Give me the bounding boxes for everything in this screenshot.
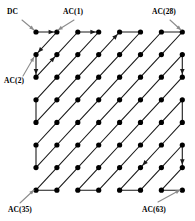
coefficient-node — [117, 120, 122, 125]
coefficient-node — [117, 29, 122, 34]
coefficient-node — [54, 75, 59, 80]
zigzag-diagram-svg — [0, 0, 195, 221]
coefficient-node — [75, 142, 80, 147]
zigzag-segment — [99, 55, 120, 78]
zigzag-segment — [78, 145, 99, 168]
zigzag-segment — [120, 55, 141, 78]
zigzag-segment — [99, 168, 120, 191]
coefficient-node — [33, 120, 38, 125]
zigzag-segment — [120, 32, 141, 55]
zigzag-segment — [141, 168, 162, 191]
coefficient-node — [75, 52, 80, 57]
coefficient-node — [75, 75, 80, 80]
zigzag-segment — [57, 55, 78, 78]
coefficient-node — [138, 97, 143, 102]
coefficient-node — [117, 188, 122, 193]
coefficient-node — [180, 97, 185, 102]
coefficient-node — [33, 97, 38, 102]
coefficient-node — [180, 75, 185, 80]
zigzag-arrowhead — [180, 69, 185, 74]
zigzag-segment — [57, 32, 78, 55]
zigzag-segment — [99, 77, 120, 100]
coefficient-node — [33, 165, 38, 170]
zigzag-segment — [141, 55, 162, 78]
zigzag-segment — [57, 122, 78, 145]
zigzag-segment — [120, 145, 141, 168]
zigzag-segment — [36, 145, 57, 168]
zigzag-segment — [57, 145, 78, 168]
zigzag-segment — [141, 122, 162, 145]
label-dc: DC — [7, 7, 18, 16]
zigzag-segment — [161, 168, 182, 191]
coefficient-node — [96, 52, 101, 57]
coefficient-node — [96, 188, 101, 193]
coefficient-node — [54, 165, 59, 170]
zigzag-segment — [36, 77, 57, 100]
zigzag-arrowhead — [49, 30, 54, 35]
zigzag-segment — [57, 168, 78, 191]
zigzag-segment — [161, 145, 182, 168]
zigzag-segment — [141, 32, 162, 55]
label-ac28: AC(28) — [152, 7, 176, 16]
zigzag-segment — [120, 122, 141, 145]
coefficient-node — [138, 165, 143, 170]
zigzag-segment — [57, 77, 78, 100]
coefficient-node — [75, 97, 80, 102]
label-ac2: AC(2) — [4, 76, 24, 85]
zigzag-segment — [36, 168, 57, 191]
coefficient-node — [117, 52, 122, 57]
coefficient-node — [159, 165, 164, 170]
coefficient-node — [96, 120, 101, 125]
label-ac1: AC(1) — [63, 7, 83, 16]
zigzag-segment — [57, 100, 78, 123]
zigzag-segment — [141, 100, 162, 123]
coefficient-node — [138, 29, 143, 34]
zigzag-segment — [161, 32, 182, 55]
coefficient-node — [180, 52, 185, 57]
coefficient-node — [117, 75, 122, 80]
coefficient-node — [159, 52, 164, 57]
coefficient-node — [96, 165, 101, 170]
coefficient-node — [75, 29, 80, 34]
coefficient-node — [33, 52, 38, 57]
coefficient-node — [75, 188, 80, 193]
zigzag-arrowhead — [34, 69, 39, 74]
zigzag-segment — [161, 77, 182, 100]
coefficient-node — [159, 120, 164, 125]
coefficient-node — [117, 165, 122, 170]
coefficient-node — [96, 97, 101, 102]
coefficient-node — [138, 52, 143, 57]
coefficient-node — [33, 75, 38, 80]
coefficient-node — [54, 97, 59, 102]
zigzag-arrowhead — [180, 159, 185, 164]
coefficient-node — [138, 142, 143, 147]
zigzag-segment — [99, 100, 120, 123]
zigzag-segment — [99, 145, 120, 168]
zigzag-segment — [78, 168, 99, 191]
zigzag-segment — [78, 77, 99, 100]
coefficient-node — [159, 97, 164, 102]
zigzag-segment — [36, 100, 57, 123]
label-ac63: AC(63) — [142, 205, 166, 214]
coefficient-node — [138, 188, 143, 193]
zigzag-segment — [120, 77, 141, 100]
zigzag-segment — [36, 122, 57, 145]
zigzag-arrowhead — [90, 30, 95, 35]
zigzag-segment — [161, 122, 182, 145]
zigzag-segment — [120, 100, 141, 123]
zigzag-segment — [141, 77, 162, 100]
label-ac35: AC(35) — [8, 205, 32, 214]
coefficient-node — [159, 29, 164, 34]
zigzag-segment — [78, 32, 99, 55]
coefficient-node — [54, 52, 59, 57]
coefficient-node — [180, 142, 185, 147]
coefficient-node — [180, 165, 185, 170]
zigzag-scan-figure: DC AC(1) AC(28) AC(2) AC(35) AC(63) — [0, 0, 195, 221]
coefficient-node — [159, 188, 164, 193]
zigzag-segment — [78, 55, 99, 78]
coefficient-node — [159, 142, 164, 147]
coefficient-node — [75, 165, 80, 170]
coefficient-node — [159, 75, 164, 80]
coefficient-node — [117, 97, 122, 102]
coefficient-node — [96, 142, 101, 147]
